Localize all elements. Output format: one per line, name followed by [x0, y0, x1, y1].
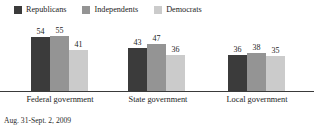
bar-democrats-local-government: 35 — [266, 24, 285, 91]
axis-baseline — [0, 91, 314, 92]
bar-republicans-local-government: 36 — [228, 24, 247, 91]
legend-label-independents: Independents — [94, 5, 138, 14]
bar-rect — [228, 55, 247, 91]
bar-value-label: 36 — [234, 45, 242, 54]
bar-democrats-state-government: 36 — [166, 24, 185, 91]
bar-value-label: 35 — [272, 46, 280, 55]
legend-swatch-democrats — [154, 6, 162, 14]
bar-rect — [31, 37, 50, 91]
bar-group-federal-government: 54 55 41 — [31, 24, 88, 91]
bar-value-label: 47 — [153, 34, 161, 43]
bar-rect — [69, 50, 88, 91]
bar-independents-federal-government: 55 — [50, 24, 69, 91]
bar-rect — [128, 48, 147, 91]
bar-rect — [50, 36, 69, 91]
bar-republicans-federal-government: 54 — [31, 24, 50, 91]
bar-value-label: 55 — [56, 26, 64, 35]
bar-rect — [166, 55, 185, 91]
bar-rect — [247, 53, 266, 91]
bar-group-local-government: 36 38 35 — [228, 24, 285, 91]
bar-group-state-government: 43 47 36 — [128, 24, 185, 91]
bar-value-label: 38 — [253, 43, 261, 52]
plot-area: 54 55 41 43 47 36 — [0, 24, 314, 92]
bar-value-label: 43 — [134, 38, 142, 47]
bar-value-label: 54 — [37, 27, 45, 36]
bar-rect — [147, 44, 166, 91]
legend-item-republicans: Republicans — [14, 5, 66, 14]
bar-republicans-state-government: 43 — [128, 24, 147, 91]
legend-label-democrats: Democrats — [166, 5, 201, 14]
category-axis-labels: Federal government State government Loca… — [0, 95, 314, 107]
bar-value-label: 41 — [75, 40, 83, 49]
bar-democrats-federal-government: 41 — [69, 24, 88, 91]
legend-swatch-republicans — [14, 6, 22, 14]
category-label-local-government: Local government — [215, 95, 299, 105]
chart-legend: Republicans Independents Democrats — [14, 5, 202, 14]
legend-swatch-independents — [82, 6, 90, 14]
legend-item-democrats: Democrats — [154, 5, 201, 14]
legend-label-republicans: Republicans — [26, 5, 66, 14]
bar-independents-state-government: 47 — [147, 24, 166, 91]
bar-independents-local-government: 38 — [247, 24, 266, 91]
chart-footnote: Aug. 31-Sept. 2, 2009 — [4, 116, 71, 125]
category-label-federal-government: Federal government — [18, 95, 102, 105]
legend-item-independents: Independents — [82, 5, 138, 14]
bar-chart: Republicans Independents Democrats 54 55… — [0, 0, 314, 130]
category-label-state-government: State government — [116, 95, 200, 105]
bar-rect — [266, 56, 285, 91]
bar-value-label: 36 — [172, 45, 180, 54]
